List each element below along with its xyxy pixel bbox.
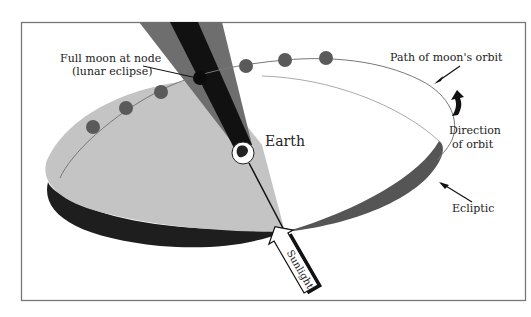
orbit-path-label: Path of moon's orbit (390, 51, 503, 64)
full-moon-label-line1: Full moon at node (60, 52, 161, 65)
earth-icon (232, 142, 254, 164)
earth-label: Earth (265, 133, 305, 149)
ecliptic-label: Ecliptic (452, 202, 494, 215)
moon (239, 59, 253, 73)
moon (154, 85, 168, 99)
moon (278, 53, 292, 67)
moon (119, 101, 133, 115)
direction-label-line1: Direction (449, 124, 501, 137)
moon (319, 51, 333, 65)
moon (86, 120, 100, 134)
lunar-eclipse-diagram: Sunlight Full moon at node (lunar eclips… (0, 0, 531, 317)
full-moon-label-line2: (lunar eclipse) (72, 65, 153, 78)
direction-label-line2: of orbit (452, 138, 494, 151)
